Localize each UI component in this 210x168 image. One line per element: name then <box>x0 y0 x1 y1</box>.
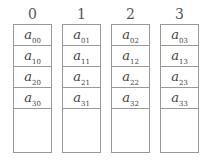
column-index: 0 <box>13 4 52 24</box>
column-index: 2 <box>111 4 150 24</box>
column-3: 3 a03 a13 a23 a33 <box>160 4 199 153</box>
cell: a00 <box>14 25 51 46</box>
column-1: 1 a01 a11 a21 a31 <box>62 4 101 153</box>
cell: a30 <box>14 88 51 109</box>
cell: a20 <box>14 67 51 88</box>
column-box: a00 a10 a20 a30 <box>13 24 52 153</box>
cell: a21 <box>63 67 100 88</box>
column-index: 3 <box>160 4 199 24</box>
cell: a11 <box>63 46 100 67</box>
cell: a32 <box>112 88 149 109</box>
cell: a23 <box>161 67 198 88</box>
cell: a22 <box>112 67 149 88</box>
cell: a33 <box>161 88 198 109</box>
column-box: a03 a13 a23 a33 <box>160 24 199 153</box>
column-box: a02 a12 a22 a32 <box>111 24 150 153</box>
cell: a02 <box>112 25 149 46</box>
column-0: 0 a00 a10 a20 a30 <box>13 4 52 153</box>
cell: a31 <box>63 88 100 109</box>
cell: a12 <box>112 46 149 67</box>
cell: a13 <box>161 46 198 67</box>
cell: a10 <box>14 46 51 67</box>
column-index: 1 <box>62 4 101 24</box>
cell: a01 <box>63 25 100 46</box>
column-2: 2 a02 a12 a22 a32 <box>111 4 150 153</box>
column-box: a01 a11 a21 a31 <box>62 24 101 153</box>
cell: a03 <box>161 25 198 46</box>
